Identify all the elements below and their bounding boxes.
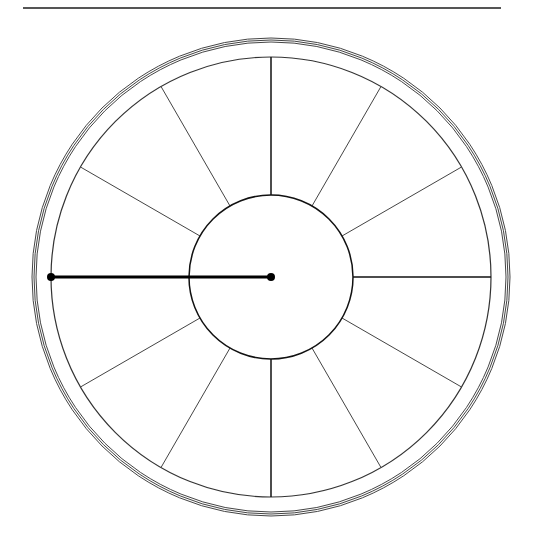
house-cusp-line (80, 167, 200, 236)
house-cusp-line (161, 86, 230, 206)
house-cusp-line (312, 348, 381, 468)
house-wheel-diagram (0, 0, 540, 546)
house-cusp-line (312, 86, 381, 206)
house-cusp-line (161, 348, 230, 468)
hand-end-dot (47, 273, 55, 281)
house-cusp-line (80, 318, 200, 387)
house-cusp-line (342, 167, 462, 236)
house-cusp-line (342, 318, 462, 387)
center-dot (267, 273, 275, 281)
